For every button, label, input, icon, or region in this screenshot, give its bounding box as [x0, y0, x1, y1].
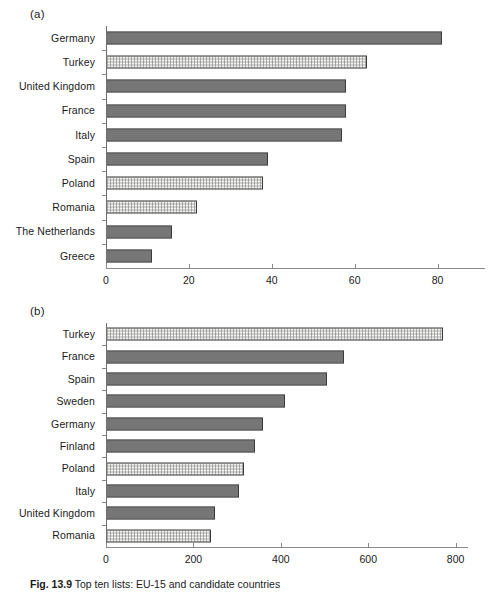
- x-axis-line: [106, 547, 468, 548]
- bar: [106, 484, 239, 497]
- x-axis-tick-label: 0: [103, 274, 109, 286]
- figure-caption-text: Top ten lists: EU-15 and candidate count…: [75, 578, 280, 590]
- y-axis-tick: [102, 502, 106, 503]
- bar-row: France: [0, 99, 493, 123]
- category-label: Turkey: [0, 329, 101, 340]
- y-axis-tick: [102, 368, 106, 369]
- bar-track: [101, 50, 493, 74]
- y-axis-tick: [102, 244, 106, 245]
- category-label: Poland: [0, 463, 101, 474]
- category-label: Italy: [0, 130, 101, 141]
- category-label: Sweden: [0, 396, 101, 407]
- category-label: Greece: [0, 251, 101, 262]
- bar: [106, 529, 211, 542]
- x-axis-line: [106, 268, 485, 269]
- category-label: The Netherlands: [0, 226, 101, 237]
- bar-row: Sweden: [0, 390, 493, 412]
- bar-track: [101, 99, 493, 123]
- bar-rows: TurkeyFranceSpainSwedenGermanyFinlandPol…: [0, 323, 493, 547]
- bar-row: Poland: [0, 457, 493, 479]
- category-label: Germany: [0, 419, 101, 430]
- bar-row: Greece: [0, 244, 493, 268]
- bar: [106, 153, 268, 166]
- bar-track: [101, 26, 493, 50]
- bar-row: Turkey: [0, 50, 493, 74]
- bar: [106, 350, 344, 363]
- bar-row: Spain: [0, 368, 493, 390]
- bar: [106, 32, 442, 45]
- x-axis-tick: [106, 264, 107, 268]
- bar-track: [101, 413, 493, 435]
- category-label: Germany: [0, 33, 101, 44]
- bar-row: Romania: [0, 195, 493, 219]
- y-axis-tick: [102, 195, 106, 196]
- figure-13-9: (a) GermanyTurkeyUnited KingdomFranceIta…: [0, 0, 493, 603]
- x-axis-tick: [438, 264, 439, 268]
- panel-a-label: (a): [30, 8, 45, 20]
- y-axis-tick: [102, 457, 106, 458]
- category-label: Finland: [0, 441, 101, 452]
- bar-row: Germany: [0, 26, 493, 50]
- bar: [106, 249, 152, 262]
- x-axis-tick-label: 20: [183, 274, 195, 286]
- bar: [106, 462, 244, 475]
- bar-row: United Kingdom: [0, 74, 493, 98]
- x-axis-tick-label: 40: [266, 274, 278, 286]
- bar-row: Poland: [0, 171, 493, 195]
- category-label: France: [0, 351, 101, 362]
- x-axis-tick: [193, 543, 194, 547]
- y-axis-tick: [102, 525, 106, 526]
- bar-track: [101, 480, 493, 502]
- category-label: Romania: [0, 202, 101, 213]
- bar: [106, 80, 346, 93]
- bar-row: Romania: [0, 525, 493, 547]
- bar: [106, 372, 327, 385]
- category-label: Romania: [0, 530, 101, 541]
- x-axis-tick-label: 400: [272, 553, 290, 565]
- bar-track: [101, 123, 493, 147]
- bar-row: Germany: [0, 413, 493, 435]
- bar-track: [101, 435, 493, 457]
- x-axis-tick-label: 600: [359, 553, 377, 565]
- figure-caption: Fig. 13.9 Top ten lists: EU-15 and candi…: [30, 578, 280, 590]
- x-axis-tick: [189, 264, 190, 268]
- bar-row: Finland: [0, 435, 493, 457]
- bar-track: [101, 171, 493, 195]
- bar-row: The Netherlands: [0, 220, 493, 244]
- x-axis-tick: [281, 543, 282, 547]
- bar: [106, 225, 172, 238]
- x-axis-tick-label: 0: [103, 553, 109, 565]
- y-axis-tick: [102, 74, 106, 75]
- bar: [106, 328, 443, 341]
- bar-track: [101, 525, 493, 547]
- x-axis-tick: [368, 543, 369, 547]
- bar-row: Italy: [0, 123, 493, 147]
- y-axis-tick: [102, 480, 106, 481]
- y-axis-tick: [102, 220, 106, 221]
- bar-row: Italy: [0, 480, 493, 502]
- y-axis-tick: [102, 390, 106, 391]
- bar-track: [101, 323, 493, 345]
- y-axis-tick: [102, 50, 106, 51]
- y-axis-tick: [102, 147, 106, 148]
- bar-track: [101, 220, 493, 244]
- bar-track: [101, 368, 493, 390]
- bar: [106, 201, 197, 214]
- bar: [106, 507, 215, 520]
- y-axis-tick: [102, 435, 106, 436]
- bar: [106, 417, 263, 430]
- bar: [106, 440, 255, 453]
- bar-row: France: [0, 345, 493, 367]
- y-axis-tick: [102, 123, 106, 124]
- bar-track: [101, 345, 493, 367]
- figure-number: Fig. 13.9: [30, 578, 72, 590]
- x-axis-tick: [456, 543, 457, 547]
- category-label: United Kingdom: [0, 508, 101, 519]
- bar-track: [101, 74, 493, 98]
- bar-track: [101, 502, 493, 524]
- bar: [106, 56, 367, 69]
- x-axis-tick-label: 80: [432, 274, 444, 286]
- y-axis-line: [106, 323, 107, 547]
- x-axis-tick: [272, 264, 273, 268]
- bar-row: United Kingdom: [0, 502, 493, 524]
